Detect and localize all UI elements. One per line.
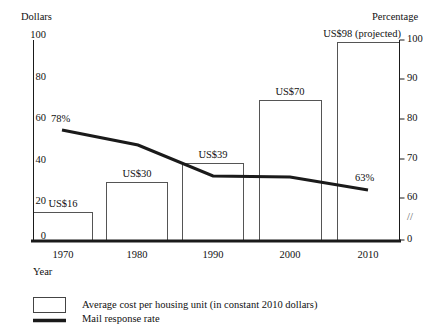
bar-label-1970: US$16	[48, 199, 77, 210]
chart-container: Dollars 100 80 60 40 20 0 Percentage 100…	[0, 0, 433, 334]
legend-bar-swatch	[34, 298, 66, 313]
left-tick-100: 100	[30, 30, 46, 41]
left-axis-title: Dollars	[21, 12, 52, 23]
right-tick-0: 0	[407, 234, 412, 245]
left-tick-40: 40	[36, 155, 47, 166]
x-axis-title: Year	[33, 267, 52, 278]
left-tick-20: 20	[36, 196, 47, 207]
bar-label-2010: US$98 (projected)	[323, 29, 401, 40]
x-tick-1970: 1970	[53, 250, 74, 261]
legend-item-bars-label: Average cost per housing unit (in consta…	[82, 300, 317, 311]
x-tick-2000: 2000	[280, 250, 301, 261]
x-tick-1990: 1990	[203, 250, 224, 261]
right-tick-80: 80	[407, 113, 418, 124]
right-tick-100: 100	[407, 34, 423, 45]
right-axis	[400, 40, 405, 241]
right-tick-90: 90	[407, 73, 418, 84]
bar-1980	[107, 183, 168, 241]
bar-2000	[260, 101, 322, 241]
line-label-first: 78%	[51, 114, 70, 125]
right-tick-60: 60	[407, 192, 418, 203]
bar-label-1980: US$30	[122, 169, 151, 180]
bar-label-1990: US$39	[198, 150, 227, 161]
legend-item-line-label: Mail response rate	[82, 314, 160, 325]
chart-canvas	[0, 0, 433, 334]
right-tick-70: 70	[407, 153, 418, 164]
x-tick-2010: 2010	[358, 250, 379, 261]
left-tick-60: 60	[36, 113, 47, 124]
bar-label-2000: US$70	[275, 87, 304, 98]
right-axis-title: Percentage	[372, 12, 418, 23]
x-tick-1980: 1980	[127, 250, 148, 261]
line-label-last: 63%	[355, 173, 374, 184]
bar-series	[34, 43, 400, 241]
left-tick-0: 0	[41, 231, 46, 242]
bar-2010	[338, 43, 400, 241]
left-tick-80: 80	[36, 72, 47, 83]
axis-break-icon: //	[407, 212, 413, 223]
